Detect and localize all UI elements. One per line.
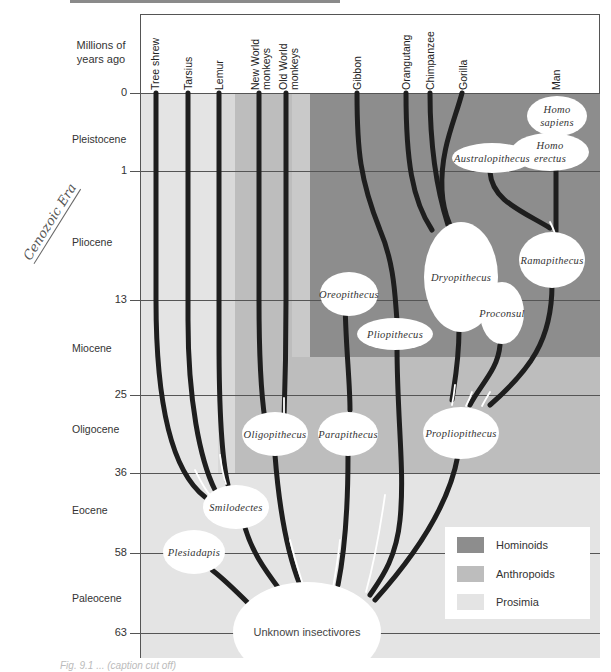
node-proconsul: Proconsul: [480, 282, 524, 344]
lineage-new-world-monkeys: [259, 93, 265, 420]
legend-label: Anthropoids: [496, 568, 555, 580]
legend-swatch-hominoids: [457, 537, 484, 553]
lineage-parapithecus-base: [338, 455, 348, 585]
legend-item-prosimia: Prosimia: [457, 593, 539, 611]
legend-label: Hominoids: [496, 539, 548, 551]
node-ramapithecus: Ramapithecus: [519, 232, 585, 288]
lineage-smilodectes-base: [243, 520, 280, 590]
node-label: sapiens: [540, 116, 574, 129]
node-propliopithecus: Propliopithecus: [423, 407, 499, 459]
legend-item-hominoids: Hominoids: [457, 536, 548, 554]
node-parapithecus: Parapithecus: [318, 412, 378, 456]
figure-caption: Fig. 9.1 ... (caption cut off): [60, 660, 176, 671]
legend-label: Prosimia: [496, 596, 539, 608]
legend: Hominoids Anthropoids Prosimia: [445, 527, 590, 619]
lineage-dryopithecus-base: [452, 330, 459, 400]
lineage-old-world-monkeys: [284, 93, 286, 420]
node-oligopithecus: Oligopithecus: [242, 412, 308, 456]
node-label: Homo: [544, 103, 571, 116]
node-australopithecus: Australopithecus: [452, 143, 532, 173]
legend-swatch-anthropoids: [457, 566, 484, 582]
lineage-tarsius: [188, 93, 215, 490]
node-label: Homo: [537, 139, 564, 152]
legend-swatch-prosimia: [457, 594, 484, 610]
lineage-australopithecus: [490, 172, 550, 228]
node-smilodectes: Smilodectes: [203, 485, 269, 529]
node-homo-sapiens: Homo sapiens: [527, 96, 587, 136]
legend-item-anthropoids: Anthropoids: [457, 565, 555, 583]
lineage-plesiadapis-base: [212, 570, 250, 605]
lineage-lemur: [219, 93, 228, 485]
node-unknown-insectivores: Unknown insectivores: [233, 582, 381, 672]
node-plesiadapis: Plesiadapis: [163, 530, 225, 574]
node-pliopithecus: Pliopithecus: [357, 318, 433, 350]
lineage-proconsul-base: [470, 345, 500, 405]
node-oreopithecus: Oreopithecus: [320, 272, 378, 316]
node-label: erectus: [534, 152, 566, 165]
